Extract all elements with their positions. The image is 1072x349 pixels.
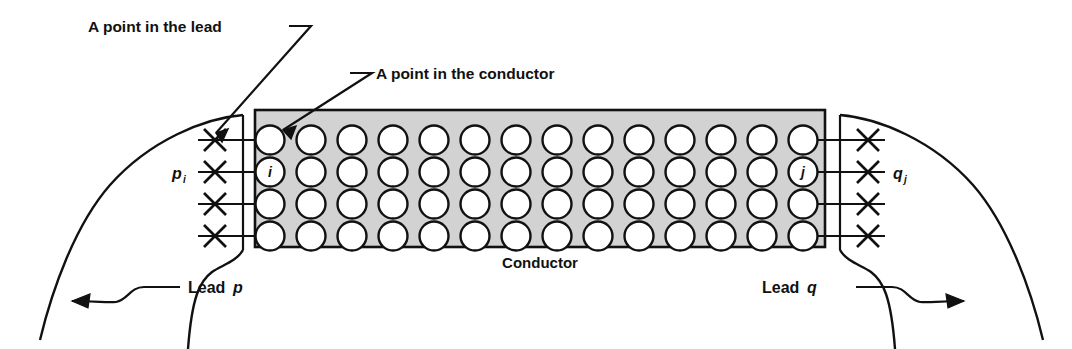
label-lead-p: Lead p <box>188 279 243 296</box>
arrowhead-icon <box>72 294 90 308</box>
conductor-node-circle <box>420 158 449 187</box>
conductor-node-circle <box>297 222 326 251</box>
leader-lead-p <box>72 287 180 308</box>
conductor-node-circle <box>666 126 695 155</box>
lead-p-lower-curve <box>188 250 243 349</box>
conductor-node-circle <box>297 126 326 155</box>
conductor-node-circle <box>625 222 654 251</box>
conductor-node-circle <box>584 126 613 155</box>
label-lead-q-letter: q <box>807 279 817 296</box>
conductor-node-circle <box>707 126 736 155</box>
label-lead-p-word: Lead <box>188 279 225 296</box>
arrowhead-icon <box>946 294 964 308</box>
conductor-node-circle <box>789 222 818 251</box>
conductor-node-circle <box>748 190 777 219</box>
conductor-node-circle <box>584 222 613 251</box>
lead-q-upper-curve <box>840 115 1043 340</box>
conductor-node-circle <box>256 222 285 251</box>
conductor-node-circle <box>256 190 285 219</box>
label-lead-p-letter: p <box>232 279 243 296</box>
conductor-node-circle <box>502 190 531 219</box>
label-point-in-conductor: A point in the conductor <box>376 65 555 82</box>
label-p-subscript: i <box>183 174 186 185</box>
lead-p-terminal-marks <box>204 129 226 247</box>
conductor-node-circle <box>420 222 449 251</box>
label-conductor: Conductor <box>502 254 578 271</box>
label-q-letter: q <box>893 165 903 182</box>
lead-q-lower-curve <box>840 250 895 349</box>
conductor-lead-diagram: ij <box>0 0 1072 349</box>
conductor-node-circle <box>379 222 408 251</box>
conductor-node-circle <box>789 126 818 155</box>
lead-q-terminal-marks <box>857 129 879 247</box>
label-terminal-p-i: p i <box>171 165 186 185</box>
label-p-letter: p <box>171 165 182 182</box>
conductor-node-circle <box>338 158 367 187</box>
conductor-node-circle <box>707 190 736 219</box>
conductor-node-circle <box>543 190 572 219</box>
lead-p-upper-curve <box>40 115 243 340</box>
conductor-node-circle <box>379 158 408 187</box>
label-point-in-lead: A point in the lead <box>88 18 222 35</box>
conductor-node-circle <box>584 190 613 219</box>
leader-lead-q <box>856 287 964 308</box>
label-lead-q: Lead q <box>762 279 817 296</box>
conductor-node-circle <box>789 190 818 219</box>
figure-canvas: ij <box>0 0 1072 349</box>
conductor-node-circle <box>338 190 367 219</box>
conductor-node-circle <box>297 190 326 219</box>
conductor-node-circle <box>584 158 613 187</box>
conductor-node-circle <box>748 158 777 187</box>
conductor-node-circle <box>666 190 695 219</box>
conductor-node-circle <box>461 158 490 187</box>
conductor-node-circle <box>338 126 367 155</box>
conductor-node-circle <box>707 222 736 251</box>
conductor-node-circle <box>543 126 572 155</box>
conductor-node-circle <box>338 222 367 251</box>
conductor-node-circle <box>502 126 531 155</box>
conductor-node-circle <box>256 126 285 155</box>
conductor-node-circle <box>666 158 695 187</box>
conductor-node-circle <box>420 126 449 155</box>
conductor-node-circle <box>461 222 490 251</box>
conductor-node-circle <box>461 190 490 219</box>
conductor-node-circle <box>461 126 490 155</box>
conductor-node-circle <box>666 222 695 251</box>
conductor-node-circle <box>625 158 654 187</box>
conductor-node-circle <box>748 222 777 251</box>
conductor-node-circle <box>379 126 408 155</box>
conductor-node-circle <box>379 190 408 219</box>
conductor-node-circle <box>748 126 777 155</box>
conductor-node-circle <box>502 222 531 251</box>
label-terminal-q-j: q j <box>893 165 907 185</box>
label-lead-q-word: Lead <box>762 279 799 296</box>
conductor-node-circle <box>543 222 572 251</box>
conductor-node-circle <box>625 126 654 155</box>
conductor-node-circle <box>543 158 572 187</box>
conductor-node-circle <box>707 158 736 187</box>
conductor-node-circle <box>502 158 531 187</box>
conductor-node-circle <box>297 158 326 187</box>
conductor-node-circle <box>420 190 449 219</box>
conductor-node-circle <box>625 190 654 219</box>
